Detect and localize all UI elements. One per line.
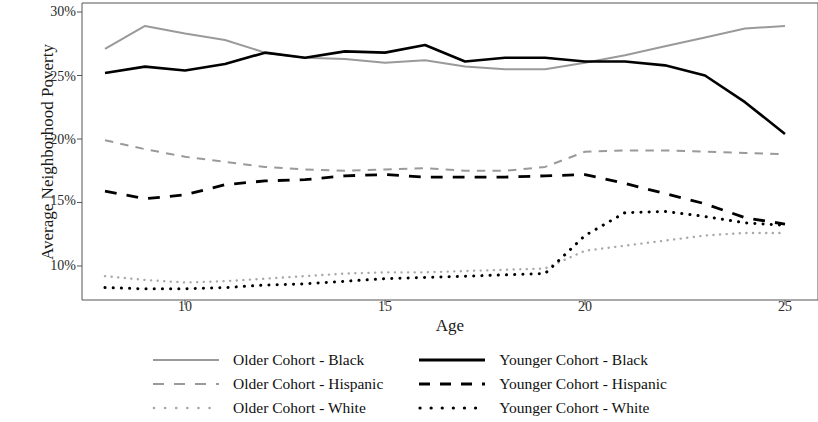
legend-key-younger-black: [417, 348, 499, 372]
legend-line-younger-black: [417, 350, 487, 370]
series-line-older-cohort-black: [105, 26, 785, 69]
legend-line-younger-hispanic: [417, 374, 487, 394]
legend-label-older-hispanic: Older Cohort - Hispanic: [233, 372, 417, 396]
plot-area: [0, 0, 818, 310]
legend-line-older-white: [151, 398, 221, 418]
plot-tick-marks: [77, 12, 785, 305]
legend-label-younger-white: Younger Cohort - White: [499, 396, 667, 420]
legend-key-older-hispanic: [151, 372, 233, 396]
legend-row: Older Cohort - White Younger Cohort - Wh…: [151, 396, 667, 420]
series-line-younger-cohort-hispanic: [105, 175, 785, 225]
series-line-older-cohort-hispanic: [105, 140, 785, 170]
series-line-older-cohort-white: [105, 233, 785, 283]
legend-row: Older Cohort - Hispanic Younger Cohort -…: [151, 372, 667, 396]
chart-figure: Average Neighborhood Poverty 30% 25% 20%…: [0, 0, 818, 422]
legend-key-older-black: [151, 348, 233, 372]
legend-label-older-white: Older Cohort - White: [233, 396, 417, 420]
series-line-younger-cohort-black: [105, 45, 785, 134]
legend-row: Older Cohort - Black Younger Cohort - Bl…: [151, 348, 667, 372]
legend-key-younger-white: [417, 396, 499, 420]
plot-series-lines: [105, 26, 785, 289]
legend-key-older-white: [151, 396, 233, 420]
legend-key-younger-hispanic: [417, 372, 499, 396]
legend-label-younger-hispanic: Younger Cohort - Hispanic: [499, 372, 667, 396]
chart-legend: Older Cohort - Black Younger Cohort - Bl…: [0, 348, 818, 422]
legend-label-older-black: Older Cohort - Black: [233, 348, 417, 372]
legend-label-younger-black: Younger Cohort - Black: [499, 348, 667, 372]
legend-line-older-hispanic: [151, 374, 221, 394]
legend-table: Older Cohort - Black Younger Cohort - Bl…: [151, 348, 667, 420]
series-line-younger-cohort-white: [105, 211, 785, 288]
legend-line-older-black: [151, 350, 221, 370]
x-axis-label: Age: [82, 316, 818, 336]
plot-frame: [82, 3, 818, 300]
legend-line-younger-white: [417, 398, 487, 418]
